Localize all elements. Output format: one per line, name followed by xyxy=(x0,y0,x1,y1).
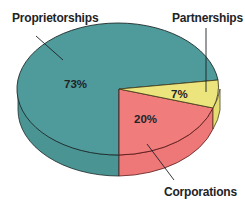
pct-corporations: 20% xyxy=(134,113,157,125)
pct-partnerships: 7% xyxy=(171,88,188,100)
label-corporations: Corporations xyxy=(164,185,237,199)
label-proprietorships: Proprietorships xyxy=(12,11,99,25)
pie-top xyxy=(17,23,219,155)
pct-proprietorships: 73% xyxy=(64,78,87,90)
label-partnerships: Partnerships xyxy=(172,11,243,25)
pie-chart: Proprietorships Partnerships Corporation… xyxy=(0,0,245,204)
